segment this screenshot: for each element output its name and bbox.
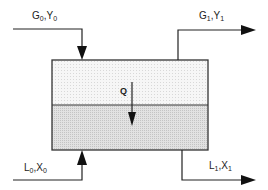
liquid-outlet-label: L1,X1 — [209, 161, 232, 172]
gas-inlet-label: G0,Y0 — [32, 11, 57, 22]
liquid-inlet-label: L0,X0 — [24, 163, 47, 174]
gas-inlet-stream — [13, 29, 87, 60]
vessel — [52, 60, 208, 150]
liquid-phase-region — [52, 105, 208, 150]
gas-outlet-stream — [178, 25, 256, 60]
arrow-right-icon — [241, 25, 256, 35]
arrow-up-icon — [77, 150, 87, 165]
transfer-label: Q — [120, 87, 127, 96]
arrow-down-icon — [77, 46, 87, 60]
gas-outlet-label: G1,Y1 — [199, 11, 224, 22]
gas-phase-region — [52, 60, 208, 105]
arrow-right-icon — [241, 175, 256, 185]
